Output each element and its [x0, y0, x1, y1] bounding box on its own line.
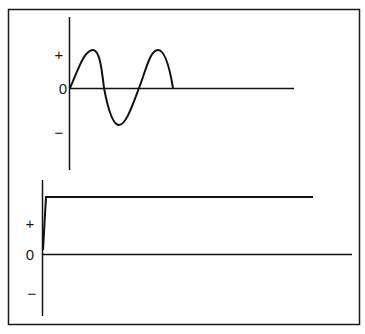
lower-plot: + 0 − [26, 180, 352, 316]
upper-plot: + 0 − [55, 17, 294, 170]
upper-minus-label: − [55, 124, 64, 141]
upper-zero-label: 0 [59, 80, 67, 97]
direct-level-line [43, 197, 313, 250]
upper-plus-label: + [55, 46, 64, 63]
figure-canvas: + 0 − + 0 − [0, 0, 365, 334]
alternating-wave [70, 50, 173, 125]
lower-minus-label: − [28, 285, 37, 302]
lower-plus-label: + [26, 215, 35, 232]
lower-zero-label: 0 [26, 246, 34, 263]
